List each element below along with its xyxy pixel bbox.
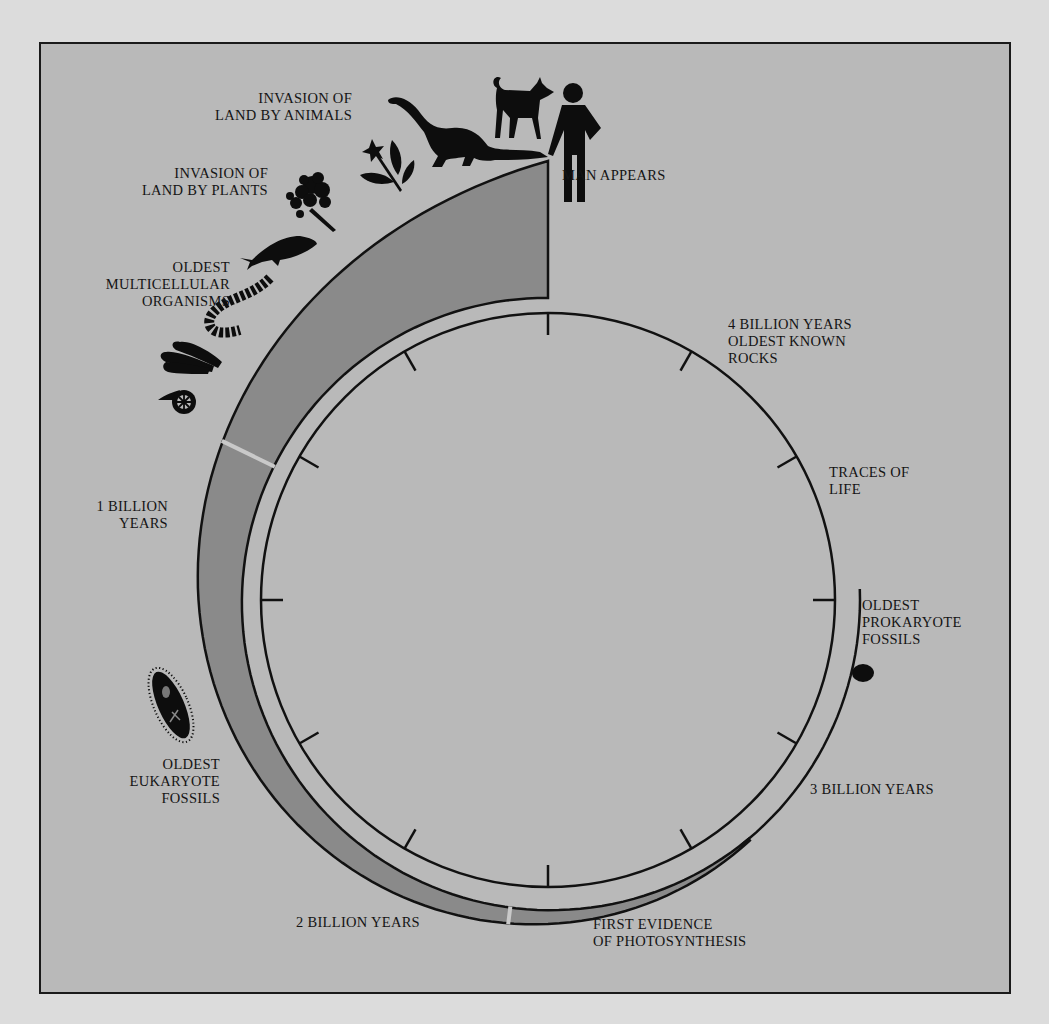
label-multicellular: OLDEST MULTICELLULAR ORGANISMS [80, 259, 230, 310]
human-figure-icon [548, 83, 601, 202]
label-man-appears: MAN APPEARS [562, 167, 666, 184]
label-eukaryote: OLDEST EUKARYOTE FOSSILS [90, 756, 220, 807]
dog-icon [493, 77, 554, 139]
prokaryote-arc [740, 589, 860, 846]
shell-icon [158, 390, 196, 414]
diagram-stage: INVASION OF LAND BY ANIMALS MAN APPEARS … [0, 0, 1049, 1024]
cell-dot-icon [852, 664, 874, 682]
label-3-billion-years: 3 BILLION YEARS [810, 781, 934, 798]
label-prokaryote: OLDEST PROKARYOTE FOSSILS [862, 597, 962, 648]
label-land-plants: INVASION OF LAND BY PLANTS [128, 165, 268, 199]
label-4-billion-years: 4 BILLION YEARS OLDEST KNOWN ROCKS [728, 316, 852, 367]
label-2-billion-years: 2 BILLION YEARS [296, 914, 420, 931]
clock-face-circle [261, 313, 835, 887]
label-1-billion-years: 1 BILLION YEARS [50, 498, 168, 532]
ciliate-icon [139, 662, 203, 749]
label-land-animals: INVASION OF LAND BY ANIMALS [212, 90, 352, 124]
tree-icon [286, 172, 336, 232]
algae-icon [161, 342, 222, 374]
flower-icon [360, 139, 414, 192]
two-billion-separator [508, 907, 510, 925]
spiral-time-band [198, 161, 750, 924]
fish-icon [240, 236, 317, 270]
clock-ticks [261, 313, 835, 887]
label-photosynthesis: FIRST EVIDENCE OF PHOTOSYNTHESIS [593, 916, 746, 950]
label-traces-of-life: TRACES OF LIFE [829, 464, 909, 498]
